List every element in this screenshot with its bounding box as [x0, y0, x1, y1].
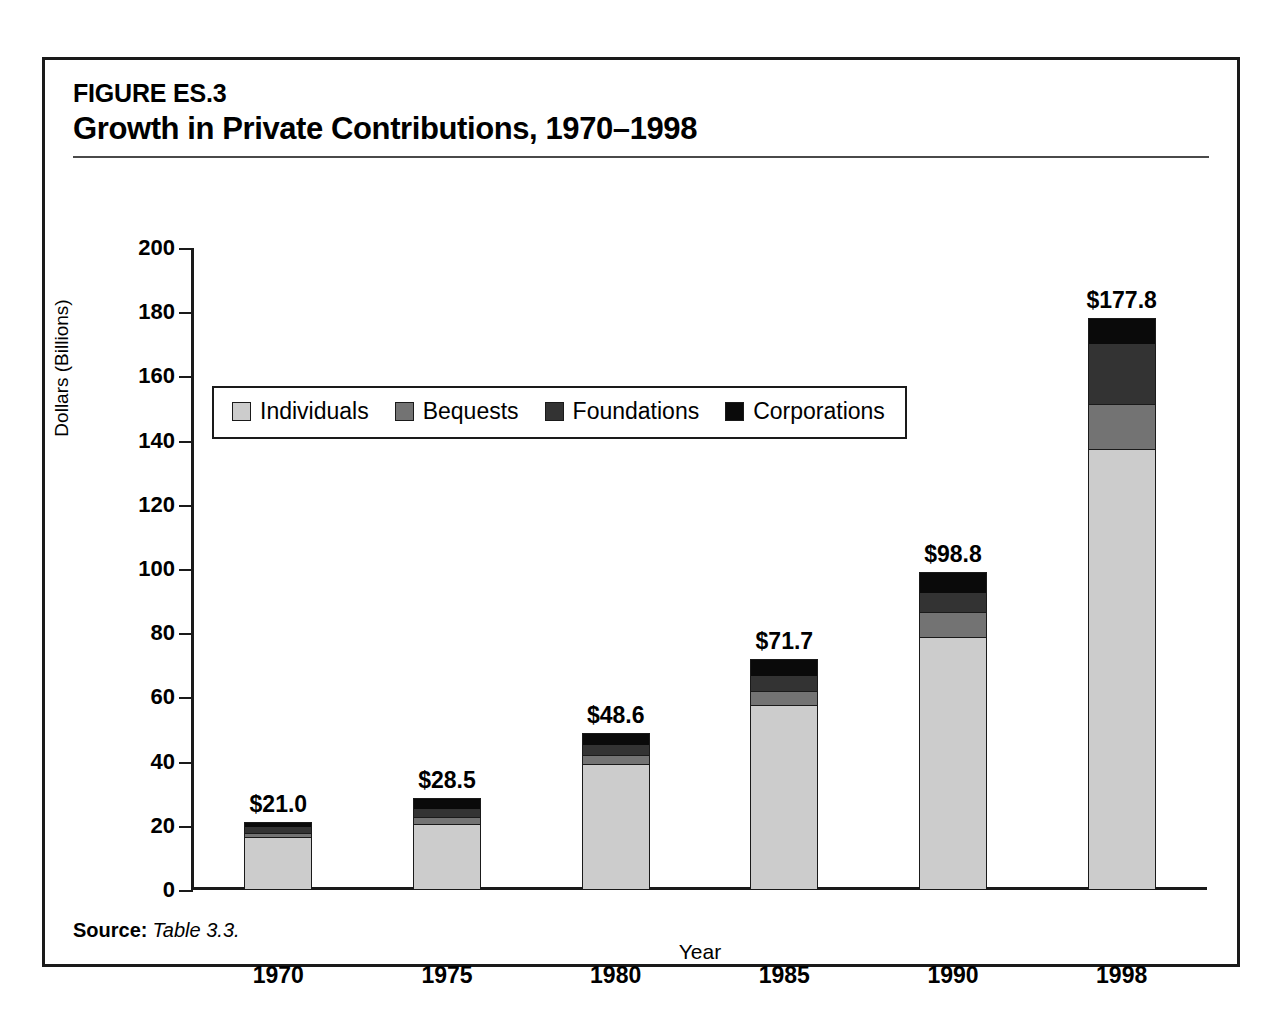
bar-segment-individuals[interactable]: [583, 765, 649, 890]
legend-label: Individuals: [260, 398, 369, 425]
bar-total-label: $71.7: [756, 628, 814, 655]
bar-segment-individuals[interactable]: [414, 825, 480, 890]
bar-total-label: $28.5: [418, 767, 476, 794]
bar-group[interactable]: $21.01970: [194, 248, 363, 890]
bar-segment-corporations[interactable]: [583, 734, 649, 745]
figure-frame: FIGURE ES.3 Growth in Private Contributi…: [42, 57, 1240, 967]
bar-segment-individuals[interactable]: [1089, 450, 1155, 890]
bar-series-group: $21.01970$28.51975$48.61980$71.71985$98.…: [194, 248, 1206, 890]
source-text: Table 3.3.: [152, 919, 239, 941]
source-label: Source:: [73, 919, 147, 941]
bar-segment-individuals[interactable]: [920, 638, 986, 890]
x-axis-tick-label: 1990: [927, 962, 978, 989]
y-axis-tick: [179, 826, 193, 828]
x-axis-title: Year: [194, 940, 1206, 964]
legend-label: Bequests: [423, 398, 519, 425]
bar-stack[interactable]: [919, 572, 987, 890]
legend-label: Corporations: [753, 398, 885, 425]
bar-total-label: $48.6: [587, 702, 645, 729]
y-axis-tick-label: 0: [105, 877, 175, 903]
y-axis-tick-label: 60: [105, 684, 175, 710]
x-axis-tick-label: 1985: [759, 962, 810, 989]
legend-swatch-icon: [725, 402, 744, 421]
bar-segment-bequests[interactable]: [414, 818, 480, 825]
y-axis-tick: [179, 505, 193, 507]
y-axis-tick-label: 40: [105, 749, 175, 775]
bar-group[interactable]: $177.81998: [1037, 248, 1206, 890]
legend-swatch-icon: [545, 402, 564, 421]
y-axis-tick: [179, 248, 193, 250]
x-axis-tick-label: 1998: [1096, 962, 1147, 989]
figure-number: FIGURE ES.3: [73, 80, 1209, 108]
bar-segment-foundations[interactable]: [920, 593, 986, 613]
bar-segment-corporations[interactable]: [920, 573, 986, 593]
figure-header: FIGURE ES.3 Growth in Private Contributi…: [73, 80, 1209, 158]
header-divider: [73, 156, 1209, 158]
bar-segment-foundations[interactable]: [751, 676, 817, 692]
bar-segment-corporations[interactable]: [414, 799, 480, 810]
bar-segment-individuals[interactable]: [245, 838, 311, 890]
legend-swatch-icon: [232, 402, 251, 421]
legend-swatch-icon: [395, 402, 414, 421]
chart-legend: IndividualsBequestsFoundationsCorporatio…: [212, 386, 907, 439]
y-axis-tick-label: 200: [105, 235, 175, 261]
bar-group[interactable]: $98.81990: [869, 248, 1038, 890]
legend-item[interactable]: Foundations: [545, 398, 700, 425]
x-axis-tick-label: 1975: [421, 962, 472, 989]
bar-stack[interactable]: [244, 822, 312, 890]
y-axis-tick-label: 20: [105, 813, 175, 839]
y-axis-tick: [179, 633, 193, 635]
y-axis-tick: [179, 762, 193, 764]
y-axis-tick-label: 80: [105, 620, 175, 646]
bar-stack[interactable]: [582, 733, 650, 890]
x-axis-tick-label: 1970: [253, 962, 304, 989]
bar-segment-bequests[interactable]: [583, 756, 649, 765]
y-axis-tick-label: 180: [105, 299, 175, 325]
bar-segment-bequests[interactable]: [1089, 405, 1155, 450]
legend-item[interactable]: Bequests: [395, 398, 519, 425]
y-axis-tick-label: 140: [105, 428, 175, 454]
bar-segment-corporations[interactable]: [751, 660, 817, 676]
y-axis-tick-label: 100: [105, 556, 175, 582]
bar-segment-bequests[interactable]: [920, 613, 986, 639]
bar-segment-foundations[interactable]: [1089, 344, 1155, 405]
bar-segment-individuals[interactable]: [751, 706, 817, 890]
source-note: Source:Table 3.3.: [73, 919, 240, 942]
bar-stack[interactable]: [1088, 318, 1156, 890]
bar-group[interactable]: $28.51975: [363, 248, 532, 890]
y-axis-tick: [179, 569, 193, 571]
bar-total-label: $21.0: [250, 791, 308, 818]
y-axis-tick-label: 120: [105, 492, 175, 518]
bar-group[interactable]: $71.71985: [700, 248, 869, 890]
y-axis-tick: [179, 890, 193, 892]
bar-stack[interactable]: [750, 659, 818, 890]
bar-segment-foundations[interactable]: [414, 809, 480, 817]
x-axis-tick-label: 1980: [590, 962, 641, 989]
bar-segment-foundations[interactable]: [583, 745, 649, 756]
y-axis-title: Dollars (Billions): [51, 258, 73, 478]
legend-label: Foundations: [573, 398, 700, 425]
y-axis-tick: [179, 376, 193, 378]
bar-segment-bequests[interactable]: [751, 692, 817, 706]
bar-stack[interactable]: [413, 798, 481, 890]
bar-group[interactable]: $48.61980: [531, 248, 700, 890]
bar-segment-corporations[interactable]: [1089, 319, 1155, 344]
legend-item[interactable]: Corporations: [725, 398, 885, 425]
bar-total-label: $98.8: [924, 541, 982, 568]
y-axis-tick: [179, 697, 193, 699]
page-title: Growth in Private Contributions, 1970–19…: [73, 111, 1209, 147]
chart-plot-area: Dollars (Billions) 020406080100120140160…: [45, 178, 1243, 918]
y-axis-tick: [179, 441, 193, 443]
y-axis-tick: [179, 312, 193, 314]
bar-total-label: $177.8: [1086, 287, 1156, 314]
legend-item[interactable]: Individuals: [232, 398, 369, 425]
y-axis-tick-label: 160: [105, 363, 175, 389]
